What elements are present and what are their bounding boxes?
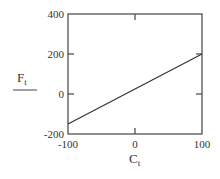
- y-tick-label-200: 200: [48, 48, 65, 60]
- y-tick-label-400: 400: [48, 8, 65, 20]
- x-axis-label: Ct: [129, 151, 141, 168]
- chart: 400 200 0 -200 -100 0 100 Ft Ct: [0, 0, 220, 179]
- series-line: [68, 54, 202, 124]
- x-tick-label-100: 100: [194, 138, 211, 150]
- x-tick-label-neg100: -100: [58, 138, 79, 150]
- plot-frame: [68, 14, 202, 134]
- x-tick-label-0: 0: [132, 138, 138, 150]
- y-axis-label: Ft: [17, 70, 27, 87]
- y-tick-label-0: 0: [59, 88, 65, 100]
